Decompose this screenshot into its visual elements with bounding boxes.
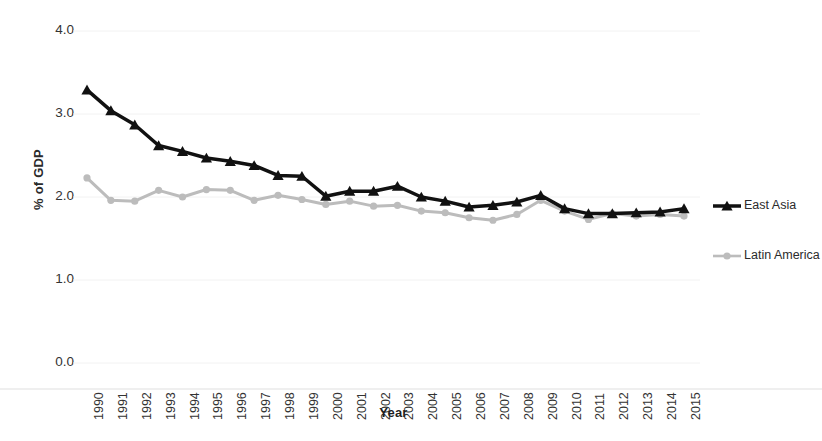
x-tick-label: 2006 xyxy=(474,392,488,420)
legend-label: Latin America xyxy=(744,248,820,263)
x-tick-label: 1992 xyxy=(140,392,154,420)
x-axis-title: Year xyxy=(334,405,454,420)
x-tick-label: 2008 xyxy=(522,392,536,420)
x-tick-label: 1990 xyxy=(92,392,106,420)
data-point-marker xyxy=(203,186,210,193)
x-tick-label: 2014 xyxy=(665,392,679,420)
triangle-marker-icon xyxy=(712,199,742,213)
data-point-marker xyxy=(394,202,401,209)
x-tick-label: 2013 xyxy=(641,392,655,420)
data-point-marker xyxy=(513,211,520,218)
x-tick-label: 1995 xyxy=(211,392,225,420)
data-point-marker xyxy=(83,174,90,181)
data-point-marker xyxy=(131,198,138,205)
data-point-marker xyxy=(418,208,425,215)
x-tick-label: 2010 xyxy=(570,392,584,420)
x-tick-label: 1996 xyxy=(235,392,249,420)
x-tick-label: 2009 xyxy=(546,392,560,420)
bottom-divider xyxy=(0,388,822,390)
x-tick-label: 1991 xyxy=(116,392,130,420)
data-point-marker xyxy=(322,201,329,208)
data-point-marker xyxy=(346,198,353,205)
data-point-marker xyxy=(155,187,162,194)
x-tick-label: 1997 xyxy=(259,392,273,420)
data-point-marker xyxy=(81,85,92,95)
series-latin-america xyxy=(83,174,687,224)
data-point-marker xyxy=(251,197,258,204)
x-tick-label: 2012 xyxy=(617,392,631,420)
data-point-marker xyxy=(227,187,234,194)
legend-entry[interactable]: East Asia xyxy=(712,198,820,214)
data-point-marker xyxy=(274,192,281,199)
data-point-marker xyxy=(107,197,114,204)
data-point-marker xyxy=(489,217,496,224)
data-point-marker xyxy=(442,209,449,216)
plot-area xyxy=(0,0,822,441)
circle-marker-icon xyxy=(712,249,742,263)
x-tick-label: 1994 xyxy=(188,392,202,420)
x-tick-label: 2007 xyxy=(498,392,512,420)
x-tick-label: 1998 xyxy=(283,392,297,420)
x-tick-label: 2015 xyxy=(689,392,703,420)
data-point-marker xyxy=(370,203,377,210)
x-tick-label: 1993 xyxy=(164,392,178,420)
chart-figure: % of GDP 0.01.02.03.04.0 199019911992199… xyxy=(0,0,822,441)
data-point-marker xyxy=(298,196,305,203)
legend-entry[interactable]: Latin America xyxy=(712,248,820,264)
legend-label: East Asia xyxy=(744,198,820,213)
data-point-marker xyxy=(465,214,472,221)
series-east-asia xyxy=(81,85,689,219)
data-point-marker xyxy=(680,212,687,219)
x-tick-label: 1999 xyxy=(307,392,321,420)
x-tick-label: 2011 xyxy=(593,393,607,420)
data-point-marker xyxy=(723,252,730,259)
data-point-marker xyxy=(179,193,186,200)
chart-legend: East AsiaLatin America xyxy=(712,198,820,298)
